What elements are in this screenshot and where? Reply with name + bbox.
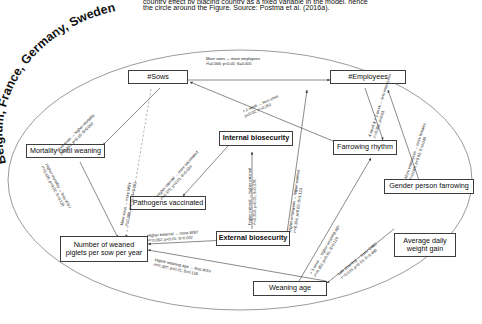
node-employees-label: #Employees xyxy=(348,73,388,81)
country-label-text: Belgium, France, Germany, Sweden xyxy=(0,0,117,165)
node-external-biosecurity[interactable]: External biosecurity xyxy=(216,231,290,246)
node-adwg-label: Average daily weight gain xyxy=(398,237,452,254)
edge-label-internal-external-stats: r²=0.354; p<0.01; ß=0.378 xyxy=(253,168,258,225)
figure-canvas: country effect by placing country as a f… xyxy=(0,0,482,324)
node-weaned-piglets-per-sow-per-year[interactable]: Number of weaned piglets per sow per yea… xyxy=(60,236,148,262)
node-internal-biosecurity[interactable]: Internal biosecurity xyxy=(219,131,293,146)
node-weaning-label: Weaning age xyxy=(269,284,311,292)
node-pathogens-vaccinated[interactable]: Pathogens vaccinated xyxy=(130,196,206,210)
node-internal-label: Internal biosecurity xyxy=(223,134,289,142)
node-farrowing-rhythm[interactable]: Farrowing rhythm xyxy=(333,140,397,155)
node-wsy-label: Number of weaned piglets per sow per yea… xyxy=(64,241,144,258)
node-sows[interactable]: #Sows xyxy=(128,70,188,84)
edge-label-sows-employees: More sows → more employees r²=0.566; p<0… xyxy=(206,57,260,67)
node-external-label: External biosecurity xyxy=(219,234,288,242)
edge-mortality-wsy xyxy=(80,162,118,238)
edge-label-internal-external: Higher internal → higher external r²=0.3… xyxy=(248,168,258,225)
node-farrowing-label: Farrowing rhythm xyxy=(337,143,393,151)
country-label: Belgium, France, Germany, Sweden xyxy=(0,0,117,165)
node-average-daily-weight-gain[interactable]: Average daily weight gain xyxy=(394,233,456,257)
edge-label-sows-employees-stats: r²=0.566; p<0.01; ß=0.005 xyxy=(206,62,260,67)
node-gender-label: Gender person farrowing xyxy=(389,182,469,190)
node-pathogens-label: Pathogens vaccinated xyxy=(133,199,204,207)
edge-sows-mortality xyxy=(103,88,160,145)
node-gender-person-farrowing[interactable]: Gender person farrowing xyxy=(384,179,474,194)
node-weaning-age[interactable]: Weaning age xyxy=(253,281,327,296)
node-sows-label: #Sows xyxy=(147,73,169,81)
